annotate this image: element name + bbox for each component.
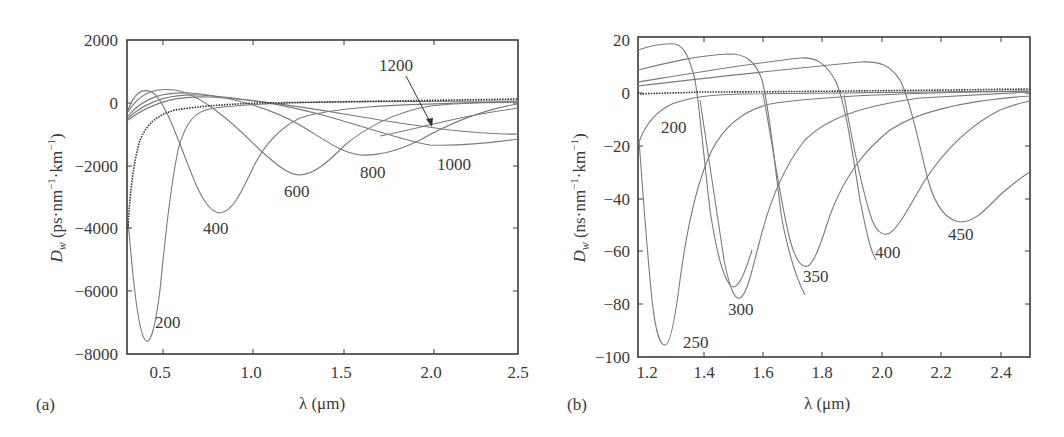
y-tick-label: −80 bbox=[603, 295, 630, 314]
curves-a bbox=[128, 90, 518, 342]
x-tick-label: 1.8 bbox=[811, 363, 832, 382]
curve-label-800: 800 bbox=[360, 163, 386, 182]
x-axis-label: λ (μm) bbox=[804, 394, 850, 413]
curve-label-400: 400 bbox=[203, 219, 229, 238]
x-tick-label: 1.2 bbox=[636, 363, 657, 382]
curve-200 bbox=[128, 101, 518, 341]
curve-label-450: 450 bbox=[948, 225, 974, 244]
curve-label-200: 200 bbox=[155, 313, 181, 332]
x-tick-label: 2.0 bbox=[420, 363, 441, 382]
curve-label-400: 400 bbox=[875, 243, 901, 262]
y-tick-label: −100 bbox=[595, 348, 630, 367]
y-tick-label: 2000 bbox=[84, 31, 118, 50]
curves-b bbox=[638, 44, 1030, 345]
curve-1200-right bbox=[380, 108, 518, 136]
curve-350-dip bbox=[763, 94, 1030, 266]
y-tick-label: 20 bbox=[613, 31, 630, 50]
curve-label-350: 350 bbox=[803, 267, 829, 286]
figure: 2000 0 −2000 −4000 −6000 −8000 0.5 1.0 1… bbox=[0, 0, 1064, 437]
curve-label-1200: 1200 bbox=[379, 56, 413, 75]
panel-label-b: (b) bbox=[567, 395, 587, 414]
plot-frame-a bbox=[127, 40, 518, 354]
y-axis-label: Dw (ps·nm−1·km−1) bbox=[45, 133, 69, 263]
y-tick-label: −40 bbox=[603, 190, 630, 209]
panel-label-a: (a) bbox=[36, 395, 55, 414]
curve-label-1000: 1000 bbox=[437, 155, 471, 174]
curve-300 bbox=[638, 54, 805, 295]
y-tick-label: −8000 bbox=[74, 345, 118, 364]
x-tick-label: 1.0 bbox=[240, 363, 261, 382]
y-tick-label: −60 bbox=[603, 242, 630, 261]
y-tick-label: −2000 bbox=[74, 157, 118, 176]
curve-label-300: 300 bbox=[728, 300, 754, 319]
curve-250-dip bbox=[639, 91, 1030, 345]
y-ticks-b bbox=[638, 93, 1030, 304]
x-tick-label: 2.4 bbox=[990, 363, 1012, 382]
x-tick-label: 0.5 bbox=[149, 363, 170, 382]
x-tick-label: 2.5 bbox=[507, 363, 528, 382]
curve-label-600: 600 bbox=[284, 182, 310, 201]
x-tick-label: 1.6 bbox=[752, 363, 773, 382]
y-tick-label: 0 bbox=[622, 84, 631, 103]
y-tick-label: 0 bbox=[110, 94, 119, 113]
panel-b: 20 0 −20 −40 −60 −80 −100 1.2 1.4 1.6 1.… bbox=[567, 31, 1030, 414]
curve-label-250: 250 bbox=[683, 333, 709, 352]
x-tick-label: 2.0 bbox=[871, 363, 892, 382]
y-tick-label: −4000 bbox=[74, 219, 118, 238]
y-tick-label: −20 bbox=[603, 137, 630, 156]
curve-350 bbox=[638, 58, 876, 260]
x-axis-label: λ (μm) bbox=[299, 394, 345, 413]
plot-frame-b bbox=[638, 37, 1030, 357]
y-tick-label: −6000 bbox=[74, 282, 118, 301]
curve-400-dip bbox=[844, 95, 1030, 234]
curve-label-200: 200 bbox=[661, 118, 687, 137]
y-axis-label: Dw (ns·nm−1·km−1) bbox=[568, 133, 592, 263]
x-tick-label: 1.4 bbox=[693, 363, 715, 382]
curve-400 bbox=[638, 62, 1030, 222]
x-tick-label: 1.5 bbox=[330, 363, 351, 382]
x-tick-label: 2.2 bbox=[930, 363, 951, 382]
annotation-arrow bbox=[406, 76, 430, 122]
panel-a: 2000 0 −2000 −4000 −6000 −8000 0.5 1.0 1… bbox=[36, 31, 529, 414]
curve-250-drop bbox=[638, 44, 752, 287]
